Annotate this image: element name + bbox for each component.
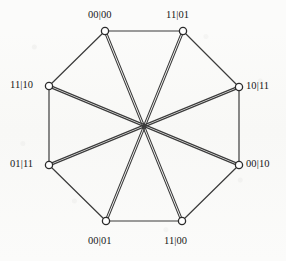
node-label-11-10: 11|10 — [10, 80, 33, 91]
perimeter-edge-n3-n4 — [182, 165, 239, 221]
graph-node-00-10[interactable] — [235, 161, 242, 168]
graph-node-11-01[interactable] — [179, 27, 186, 34]
node-label-11-01: 11|01 — [166, 10, 189, 21]
graph-node-11-10[interactable] — [45, 82, 52, 89]
diagonal-edge-stroke-b — [106, 31, 183, 221]
octagon-graph-figure: 00|0011|0110|1100|1011|0000|0101|1111|10 — [0, 0, 286, 261]
node-label-00-10: 00|10 — [246, 159, 270, 170]
graph-node-10-11[interactable] — [235, 83, 242, 90]
perimeter-edge-n7-n0 — [49, 31, 105, 86]
graph-canvas — [0, 0, 286, 261]
node-label-11-00: 11|00 — [164, 236, 187, 247]
perimeter-edge-n1-n2 — [183, 31, 239, 87]
perimeter-edge-n5-n6 — [49, 165, 106, 221]
graph-node-00-01[interactable] — [102, 217, 109, 224]
node-label-00-01: 00|01 — [88, 236, 112, 247]
node-label-10-11: 10|11 — [246, 81, 269, 92]
graph-node-01-11[interactable] — [45, 161, 52, 168]
node-label-00-00: 00|00 — [88, 10, 112, 21]
node-label-01-11: 01|11 — [10, 159, 33, 170]
graph-node-11-00[interactable] — [178, 217, 185, 224]
graph-node-00-00[interactable] — [101, 27, 108, 34]
